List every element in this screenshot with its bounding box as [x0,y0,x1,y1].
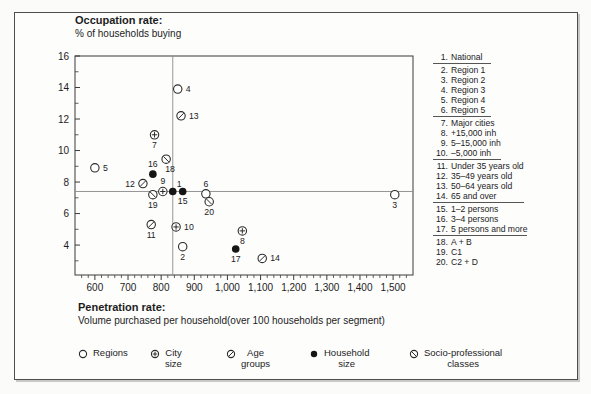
legend-item-text: Region 1 [451,65,485,75]
segment-legend: 1.National2.Region 13.Region 24.Region 3… [433,52,527,269]
data-point-label: 19 [148,200,158,210]
legend-item-number: 19. [433,247,448,257]
legend-item-number: 14. [433,191,448,201]
legend-item-number: 17. [433,224,448,234]
legend-item-text: Region 3 [451,85,485,95]
data-point-label: 10 [184,222,194,232]
figure: 6007008009001,0001,1001,2001,3001,4001,5… [0,0,591,394]
legend-group: 15.1–2 persons16.3–4 persons17.5 persons… [433,204,527,236]
legend-item: 20.C2 + D [433,257,491,267]
data-point-4: 4 [174,84,191,94]
legend-item-text: 5 persons and more [451,224,527,234]
x-tick-label: 700 [120,282,137,293]
legend-item-text: 65 and over [451,191,496,201]
data-point-15: 15 [178,188,188,207]
legend-item-text: 5–15,000 inh [451,138,501,148]
x-tick-label: 1,200 [281,282,306,293]
data-point-label: 3 [392,200,397,210]
legend-item-number: 13. [433,181,448,191]
legend-item-text: 3–4 persons [451,214,498,224]
y-tick-label: 16 [58,51,70,62]
x-axis-subtitle: Volume purchased per household(over 100 … [78,314,385,327]
legend-item-text: 50–64 years old [451,181,512,191]
data-point-label: 16 [148,159,158,169]
x-axis-title-block: Penetration rate: Volume purchased per h… [78,301,385,327]
y-tick-label: 10 [58,145,70,156]
legend-item: 10.–5,000 inh [433,148,501,158]
legend-item: 2.Region 1 [433,65,491,75]
legend-item: 17.5 persons and more [433,224,527,234]
legend-item-text: National [451,52,483,62]
legend-item-text: Under 35 years old [451,161,524,171]
data-point-label: 9 [160,176,165,186]
data-point-label: 5 [103,163,108,173]
x-tick-label: 800 [153,282,170,293]
legend-item: 4.Region 3 [433,85,491,95]
legend-item-text: +15,000 inh [451,128,496,138]
legend-item-text: –5,000 inh [451,148,491,158]
legend-item-number: 2. [433,65,448,75]
legend-item-text: Major cities [451,118,494,128]
x-tick-label: 1,100 [248,282,273,293]
data-point-label: 20 [204,207,214,217]
legend-item: 18.A + B [433,237,491,247]
legend-item: 13.50–64 years old [433,181,524,191]
legend-item: 7.Major cities [433,118,501,128]
legend-group: 1.National [433,52,491,64]
legend-item-text: Region 5 [451,105,485,115]
data-point-11: 11 [147,220,156,239]
legend-item-number: 9. [433,138,448,148]
data-point-label: 15 [178,196,188,206]
data-point-3: 3 [391,190,399,209]
marker-legend-label: Household size [324,348,369,369]
marker-legend: RegionsCity sizeAge groupsHousehold size… [0,345,591,379]
filled-circle-icon [309,349,319,359]
legend-item-number: 7. [433,118,448,128]
data-point-19: 19 [148,190,158,209]
x-axis-title: Penetration rate: [78,301,385,314]
legend-item: 6.Region 5 [433,105,491,115]
x-tick-label: 600 [87,282,104,293]
x-axis-ticks: 6007008009001,0001,1001,2001,3001,4001,5… [82,275,407,293]
legend-item-text: A + B [451,237,472,247]
y-axis-ticks: 46810121416 [58,51,80,261]
x-tick-label: 1,300 [314,282,339,293]
y-tick-label: 6 [63,208,69,219]
data-point-20: 20 [204,198,214,217]
y-tick-label: 12 [58,114,70,125]
data-point-label: 8 [240,236,245,246]
legend-item: 8.+15,000 inh [433,128,501,138]
open-circle-icon [78,349,88,359]
x-tick-label: 900 [186,282,203,293]
legend-item-number: 1. [433,52,448,62]
data-point-10: 10 [172,222,194,232]
legend-item-text: 35–49 years old [451,171,512,181]
legend-item: 19.C1 [433,247,491,257]
x-tick-label: 1,500 [381,282,406,293]
legend-item-number: 3. [433,75,448,85]
x-tick-label: 1,400 [347,282,372,293]
legend-item-number: 16. [433,214,448,224]
marker-legend-item: Age groups [226,348,270,369]
legend-group: 2.Region 13.Region 24.Region 35.Region 4… [433,65,491,117]
data-point-12: 12 [125,179,147,189]
legend-item-number: 11. [433,161,448,171]
legend-item-number: 20. [433,257,448,267]
legend-item-number: 12. [433,171,448,181]
data-point-8: 8 [238,227,246,246]
x-tick-label: 1,000 [215,282,240,293]
legend-item: 11.Under 35 years old [433,161,524,171]
data-point-17: 17 [231,245,241,264]
series-household-size: 151617 [148,159,241,264]
data-point-13: 13 [177,111,199,121]
legend-item-number: 6. [433,105,448,115]
data-point-14: 14 [258,253,280,263]
data-point-label: 18 [165,164,175,174]
y-axis-title: Occupation rate: [75,14,181,27]
marker-legend-label: Socio-professional classes [424,348,502,369]
marker-legend-item: Socio-professional classes [409,348,502,369]
data-point-7: 7 [150,131,158,150]
legend-item-number: 15. [433,204,448,214]
legend-item-number: 4. [433,85,448,95]
legend-item: 3.Region 2 [433,75,491,85]
